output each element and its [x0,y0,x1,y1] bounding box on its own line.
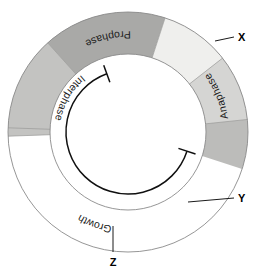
ring-segment-z [202,119,248,169]
cell-cycle-diagram-canvas: GrowthProphaseAnaphase Interphase XYZ [0,0,253,274]
callout-leader-line-x [215,37,234,41]
interphase-arc-group [66,65,196,194]
cell-cycle-ring-diagram: GrowthProphaseAnaphase Interphase XYZ [0,0,253,274]
callout-label-x: X [238,31,246,43]
segment-label-growth: Growth [75,212,112,235]
ring-inner-outline [50,54,206,210]
interphase-arc-endcap-end [104,65,110,82]
interphase-arc [66,74,187,194]
callout-label-z: Z [110,256,117,268]
callout-label-y: Y [238,192,246,204]
